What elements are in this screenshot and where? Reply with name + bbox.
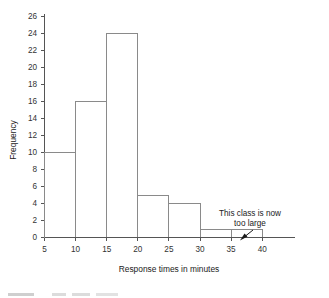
histogram-chart: 26 24 22 20 18 16 14 12 10 8 6 4 2 0 bbox=[0, 0, 329, 298]
y-tick-label: 18 bbox=[28, 80, 38, 89]
y-tick-label: 22 bbox=[28, 46, 38, 55]
x-tick-label: 30 bbox=[195, 245, 205, 254]
histogram-bar bbox=[107, 34, 138, 238]
y-tick-label: 14 bbox=[28, 114, 38, 123]
figure-caption-cropped bbox=[8, 293, 118, 296]
y-tick-label: 24 bbox=[28, 29, 38, 38]
y-tick-label: 2 bbox=[32, 216, 37, 225]
y-tick-label: 8 bbox=[32, 165, 37, 174]
x-axis-tick-marks bbox=[45, 238, 263, 242]
histogram-bar bbox=[45, 153, 76, 238]
x-axis-tick-labels: 5 10 15 20 25 30 35 40 bbox=[42, 245, 267, 254]
x-tick-label: 40 bbox=[258, 245, 268, 254]
y-axis-title: Frequency bbox=[8, 119, 18, 159]
y-axis-tick-labels: 26 24 22 20 18 16 14 12 10 8 6 4 2 0 bbox=[28, 12, 38, 242]
y-tick-label: 0 bbox=[32, 233, 37, 242]
x-tick-label: 10 bbox=[71, 245, 81, 254]
histogram-bars bbox=[45, 34, 263, 238]
annotation-line-1: This class is now bbox=[219, 209, 281, 218]
histogram-bar bbox=[76, 102, 107, 238]
x-tick-label: 20 bbox=[133, 245, 143, 254]
x-axis-title: Response times in minutes bbox=[119, 264, 220, 274]
x-tick-label: 35 bbox=[227, 245, 237, 254]
x-tick-label: 5 bbox=[42, 245, 47, 254]
caption-fragment bbox=[72, 293, 90, 296]
y-tick-label: 6 bbox=[32, 182, 37, 191]
histogram-bar bbox=[169, 204, 200, 238]
y-axis-tick-marks bbox=[41, 17, 45, 238]
annotation-line-2: too large bbox=[234, 219, 266, 228]
caption-fragment bbox=[8, 293, 34, 296]
y-tick-label: 26 bbox=[28, 12, 38, 21]
y-tick-label: 10 bbox=[28, 148, 38, 157]
y-tick-label: 12 bbox=[28, 131, 38, 140]
x-tick-label: 15 bbox=[102, 245, 112, 254]
histogram-bar bbox=[138, 195, 169, 238]
caption-fragment bbox=[96, 293, 118, 296]
histogram-bar bbox=[200, 229, 231, 238]
y-tick-label: 16 bbox=[28, 97, 38, 106]
y-tick-label: 20 bbox=[28, 63, 38, 72]
x-tick-label: 25 bbox=[164, 245, 174, 254]
histogram-figure: 26 24 22 20 18 16 14 12 10 8 6 4 2 0 bbox=[0, 0, 329, 298]
caption-fragment bbox=[52, 293, 66, 296]
y-tick-label: 4 bbox=[32, 199, 37, 208]
